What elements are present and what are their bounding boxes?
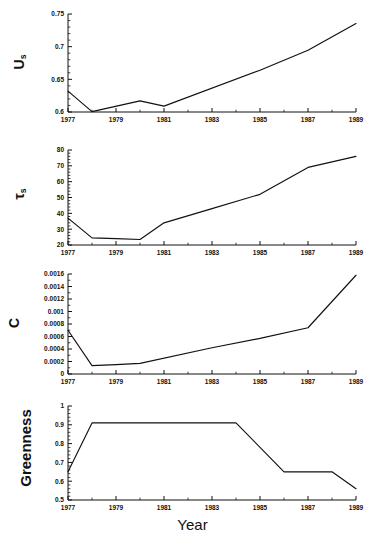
y-tick-label: 0.001 bbox=[48, 308, 65, 315]
y-tick-label: 0.5 bbox=[55, 496, 64, 503]
x-tick-label: 1979 bbox=[109, 378, 124, 385]
chart-panel-greenness: Greenness 0.50.60.70.80.9119771979198119… bbox=[0, 398, 385, 518]
x-tick-label: 1989 bbox=[349, 378, 364, 385]
x-tick-label: 1983 bbox=[205, 378, 220, 385]
x-tick-label: 1985 bbox=[253, 378, 268, 385]
x-tick-label: 1979 bbox=[109, 116, 124, 123]
y-tick-label: 0.65 bbox=[51, 76, 64, 83]
panel-us-plot: 0.60.650.70.7519771979198119831985198719… bbox=[0, 0, 385, 136]
data-series-line bbox=[68, 23, 356, 111]
y-tick-label: 0.0002 bbox=[44, 358, 64, 365]
x-tick-label: 1977 bbox=[61, 378, 76, 385]
panel-greenness-ylabel: Greenness bbox=[16, 403, 36, 493]
y-tick-label: 60 bbox=[57, 178, 65, 185]
y-tick-label: 0.6 bbox=[55, 108, 64, 115]
x-axis-title: Year bbox=[0, 516, 385, 533]
x-tick-label: 1981 bbox=[157, 116, 172, 123]
y-tick-label: 0.7 bbox=[55, 43, 64, 50]
panel-us-ylabel: Us bbox=[10, 36, 30, 88]
y-tick-label: 30 bbox=[57, 226, 65, 233]
y-tick-label: 1 bbox=[60, 402, 64, 409]
x-tick-label: 1979 bbox=[109, 249, 124, 256]
panel-tau-ylabel-wrap: τs bbox=[0, 184, 46, 202]
x-tick-label: 1987 bbox=[301, 249, 316, 256]
y-tick-label: 0 bbox=[60, 370, 64, 377]
x-tick-label: 1977 bbox=[61, 249, 76, 256]
x-tick-label: 1977 bbox=[61, 116, 76, 123]
x-tick-label: 1981 bbox=[157, 504, 172, 511]
x-tick-label: 1989 bbox=[349, 249, 364, 256]
chart-panel-tau: τs 2030405060708019771979198119831985198… bbox=[0, 136, 385, 266]
x-tick-label: 1983 bbox=[205, 116, 220, 123]
x-tick-label: 1981 bbox=[157, 249, 172, 256]
panel-tau-ylabel: τs bbox=[10, 168, 30, 220]
y-tick-label: 0.0012 bbox=[44, 295, 64, 302]
y-tick-label: 0.6 bbox=[55, 478, 64, 485]
y-tick-label: 40 bbox=[57, 210, 65, 217]
x-tick-label: 1977 bbox=[61, 504, 76, 511]
y-tick-label: 0.7 bbox=[55, 459, 64, 466]
panel-c-plot: 00.00020.00040.00060.00080.0010.00120.00… bbox=[0, 266, 385, 398]
x-tick-label: 1987 bbox=[301, 378, 316, 385]
panel-tau-plot: 2030405060708019771979198119831985198719… bbox=[0, 136, 385, 266]
panel-us-ylabel-wrap: Us bbox=[0, 52, 46, 70]
panel-c-ylabel: C bbox=[5, 301, 23, 345]
y-tick-label: 0.0006 bbox=[44, 333, 64, 340]
figure-panel-stack: Us 0.60.650.70.7519771979198119831985198… bbox=[0, 0, 385, 546]
x-tick-label: 1979 bbox=[109, 504, 124, 511]
x-tick-label: 1989 bbox=[349, 504, 364, 511]
y-tick-label: 0.0008 bbox=[44, 320, 64, 327]
x-tick-label: 1981 bbox=[157, 378, 172, 385]
panel-greenness-plot: 0.50.60.70.80.91197719791981198319851987… bbox=[0, 398, 385, 518]
x-tick-label: 1985 bbox=[253, 249, 268, 256]
y-tick-label: 0.75 bbox=[51, 10, 64, 17]
y-tick-label: 20 bbox=[57, 241, 65, 248]
y-tick-label: 0.9 bbox=[55, 421, 64, 428]
y-tick-label: 0.0014 bbox=[44, 283, 64, 290]
x-tick-label: 1983 bbox=[205, 249, 220, 256]
chart-panel-c: C 00.00020.00040.00060.00080.0010.00120.… bbox=[0, 266, 385, 398]
panel-greenness-ylabel-wrap: Greenness bbox=[0, 438, 71, 458]
x-tick-label: 1985 bbox=[253, 116, 268, 123]
y-tick-label: 50 bbox=[57, 194, 65, 201]
x-tick-label: 1989 bbox=[349, 116, 364, 123]
y-tick-label: 70 bbox=[57, 162, 65, 169]
data-series-line bbox=[68, 156, 356, 239]
data-series-line bbox=[68, 423, 356, 489]
x-tick-label: 1987 bbox=[301, 116, 316, 123]
x-tick-label: 1983 bbox=[205, 504, 220, 511]
chart-panel-us: Us 0.60.650.70.7519771979198119831985198… bbox=[0, 0, 385, 136]
y-tick-label: 0.0016 bbox=[44, 270, 64, 277]
y-tick-label: 80 bbox=[57, 146, 65, 153]
data-series-line bbox=[68, 275, 356, 365]
x-tick-label: 1985 bbox=[253, 504, 268, 511]
y-tick-label: 0.0004 bbox=[44, 345, 64, 352]
x-tick-label: 1987 bbox=[301, 504, 316, 511]
panel-c-ylabel-wrap: C bbox=[0, 314, 36, 332]
